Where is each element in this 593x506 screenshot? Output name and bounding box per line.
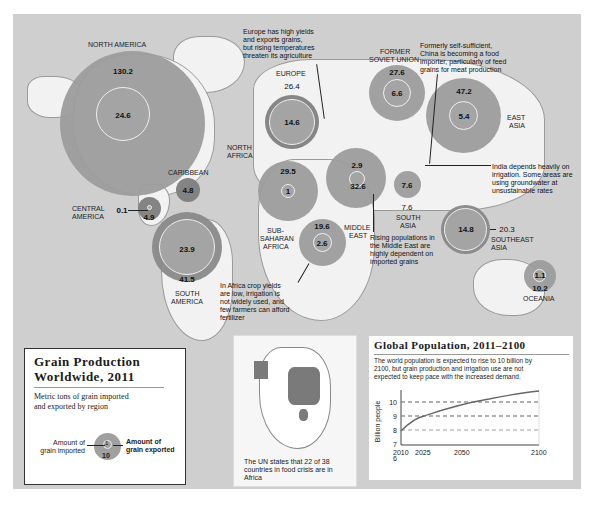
europe-label: EUROPE: [276, 70, 306, 78]
southeast-asia-label-2: ASIA: [491, 244, 507, 252]
middle-east-label-1: MIDDLE: [344, 224, 370, 232]
north-africa-label-1: NORTH: [227, 144, 252, 152]
north-africa-imported: 29.5: [280, 167, 296, 176]
middle-east-exported: 2.9: [351, 161, 362, 170]
central-america-leader: [128, 210, 148, 211]
fsu-imported: 6.6: [391, 89, 402, 98]
africa-crisis-region-south: [299, 409, 308, 421]
ssa-imported: 19.6: [314, 222, 330, 231]
south-asia-exported: 7.6: [401, 203, 412, 212]
africa-inset-caption: The UN states that 22 of 38 countries in…: [244, 458, 333, 482]
fsu-label-2: SOVIET UNION: [369, 56, 419, 64]
africa-crisis-region-central: [288, 367, 320, 405]
legend-sample-exported: 10: [102, 452, 110, 459]
southeast-asia-exported: 20.3: [499, 225, 515, 234]
legend-subtitle-2: and exported by region: [34, 402, 108, 411]
ssa-label-1: SUB-: [267, 227, 284, 235]
oceania-imported: 1.1: [534, 271, 545, 280]
east-asia-label-1: EAST: [507, 114, 525, 122]
europe-exported: 26.4: [284, 82, 300, 91]
east-asia-exported: 47.2: [456, 87, 472, 96]
europe-imported: 14.6: [284, 118, 300, 127]
north-africa-label-2: AFRICA: [227, 152, 253, 160]
oceania-label: OCEANIA: [523, 295, 555, 303]
africa-crisis-region-west: [254, 361, 268, 379]
caribbean-label: CARIBBEAN: [168, 169, 208, 177]
legend-panel: Grain Production Worldwide, 2011 Metric …: [24, 348, 186, 485]
legend-title-1: Grain Production: [34, 354, 140, 370]
north-america-imported: 24.6: [115, 111, 131, 120]
south-america-label-1: SOUTH: [175, 290, 200, 298]
legend-exported-leader: [113, 445, 123, 446]
ssa-exported: 2.6: [316, 239, 327, 248]
south-america-label-2: AMERICA: [171, 298, 203, 306]
east-asia-imported: 5.4: [458, 112, 469, 121]
east-asia-label-2: ASIA: [509, 122, 525, 130]
oceania-exported: 10.2: [532, 284, 548, 293]
population-xtick-2025: 2025: [415, 449, 431, 456]
ssa-label-3: AFRICA: [263, 243, 289, 251]
africa-inset-map: [254, 341, 344, 456]
fsu-exported: 27.6: [389, 68, 405, 77]
india-note-leader: [425, 165, 491, 166]
legend-title-2: Worldwide, 2011: [34, 369, 135, 385]
middle-east-imported: 32.6: [350, 182, 366, 191]
caribbean-imported: 4.8: [182, 186, 193, 195]
legend-subtitle-1: Metric tons of grain imported: [34, 392, 129, 401]
north-america-exported: 130.2: [113, 67, 133, 76]
southeast-asia-imported: 14.8: [458, 225, 474, 234]
southeast-asia-label-1: SOUTHEAST: [491, 236, 534, 244]
central-america-label-2: AMERICA: [72, 213, 104, 221]
legend-imported-label: Amount of grain imported: [30, 439, 85, 455]
legend-imported-leader: [87, 445, 105, 446]
middle-east-note-leader: [373, 194, 374, 232]
southeast-asia-leader: [490, 229, 496, 230]
china-note: Formerly self-sufficient, China is becom…: [420, 42, 506, 74]
population-xtick-2100: 2100: [531, 449, 547, 456]
ssa-label-2: SAHARAN: [260, 235, 294, 243]
south-america-imported: 23.9: [179, 245, 195, 254]
central-america-label-1: CENTRAL: [72, 205, 105, 213]
central-america-exported: 0.1: [116, 206, 127, 215]
population-xtick-2010: 2010: [393, 449, 409, 456]
europe-note: Europe has high yields and exports grain…: [243, 28, 315, 60]
fsu-label-1: FORMER: [380, 48, 410, 56]
central-america-imported: 4.9: [143, 213, 154, 222]
population-line-chart: [369, 336, 573, 480]
south-asia-label-2: ASIA: [400, 222, 416, 230]
population-panel: Global Population, 2011–2100 The world p…: [369, 336, 573, 480]
population-xtick-2050: 2050: [454, 449, 470, 456]
africa-inset-panel: The UN states that 22 of 38 countries in…: [233, 335, 357, 487]
legend-divider: [34, 387, 164, 388]
middle-east-note: Rising populations in the Middle East ar…: [370, 234, 435, 266]
south-america-exported: 41.5: [179, 275, 195, 284]
middle-east-label-2: EAST: [349, 232, 367, 240]
north-africa-exported: 1: [286, 187, 290, 196]
south-asia-label-1: SOUTH: [396, 214, 421, 222]
legend-sample-imported: 1: [105, 440, 108, 446]
north-america-label: NORTH AMERICA: [88, 41, 146, 49]
india-note: India depends heavily on irrigation. Som…: [492, 163, 573, 195]
africa-note: In Africa crop yields are low, irrigatio…: [220, 282, 290, 322]
legend-exported-label: Amount of grain exported: [126, 438, 175, 454]
south-asia-imported: 7.6: [401, 181, 412, 190]
